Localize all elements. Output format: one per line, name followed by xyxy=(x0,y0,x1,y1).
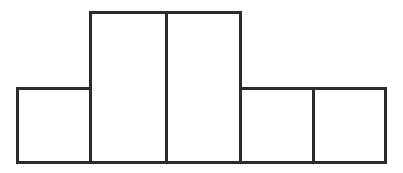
bar-rect-1 xyxy=(17,88,90,162)
bar-diagram-figure xyxy=(0,0,403,173)
bar-rect-2 xyxy=(90,12,166,162)
bar-diagram-canvas xyxy=(0,0,403,173)
bar-rect-5 xyxy=(313,88,385,162)
bar-rect-3 xyxy=(166,12,240,162)
bar-rect-4 xyxy=(240,88,313,162)
